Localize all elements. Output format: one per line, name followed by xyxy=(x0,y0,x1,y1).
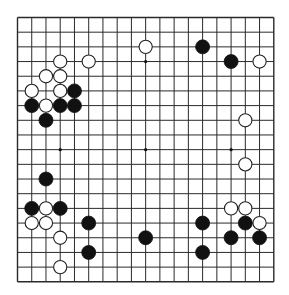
white-stone xyxy=(224,202,237,215)
white-stone xyxy=(54,84,67,97)
white-stone xyxy=(82,55,95,68)
black-stone xyxy=(196,245,210,259)
white-stone xyxy=(139,40,152,53)
black-stone xyxy=(25,99,39,113)
black-stone xyxy=(53,99,67,113)
star-point xyxy=(144,148,147,151)
white-stone xyxy=(54,55,67,68)
star-point xyxy=(229,148,232,151)
black-stone xyxy=(253,231,267,245)
white-stone xyxy=(39,99,52,112)
white-stone xyxy=(253,55,266,68)
black-stone xyxy=(139,231,153,245)
white-stone xyxy=(25,216,38,229)
black-stone xyxy=(25,201,39,215)
black-stone xyxy=(224,55,238,69)
black-stone xyxy=(39,172,53,186)
black-stone xyxy=(196,40,210,54)
black-stone xyxy=(53,201,67,215)
white-stone xyxy=(239,114,252,127)
white-stone xyxy=(239,158,252,171)
star-point xyxy=(59,148,62,151)
white-stone xyxy=(54,261,67,274)
white-stone xyxy=(39,202,52,215)
white-stone xyxy=(54,70,67,83)
white-stone xyxy=(39,70,52,83)
black-stone xyxy=(196,216,210,230)
black-stone xyxy=(82,245,96,259)
black-stone xyxy=(224,231,238,245)
white-stone xyxy=(54,231,67,244)
white-stone xyxy=(253,216,266,229)
white-stone xyxy=(239,202,252,215)
black-stone xyxy=(67,99,81,113)
go-board[interactable] xyxy=(0,0,289,295)
white-stone xyxy=(39,216,52,229)
star-point xyxy=(144,60,147,63)
black-stone xyxy=(39,113,53,127)
black-stone xyxy=(238,216,252,230)
black-stone xyxy=(67,84,81,98)
white-stone xyxy=(25,84,38,97)
black-stone xyxy=(82,216,96,230)
